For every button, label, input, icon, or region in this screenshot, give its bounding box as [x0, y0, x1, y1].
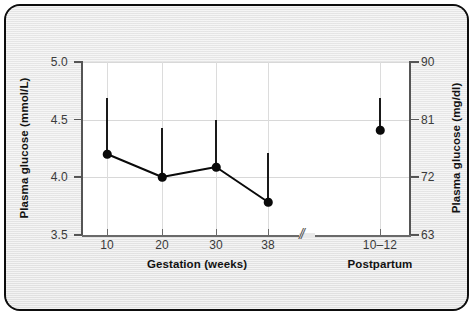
- data-point-30: [212, 163, 221, 172]
- x-axis-title-gestation: Gestation (weeks): [112, 258, 282, 270]
- figure-card: 5.0 4.5 4.0 3.5 90 81 72 63 10 20 30 38 …: [4, 4, 469, 311]
- chart-stage: 5.0 4.5 4.0 3.5 90 81 72 63 10 20 30 38 …: [4, 4, 469, 311]
- y-axis-left-title: Plasma glucose (mmol/L): [18, 58, 30, 238]
- data-point-10: [103, 150, 112, 159]
- data-point-20: [158, 173, 167, 182]
- data-point-postpartum: [376, 126, 385, 135]
- y-axis-right-title: Plasma glucose (mg/dl): [450, 58, 462, 238]
- data-point-38: [264, 198, 273, 207]
- x-axis-title-postpartum: Postpartum: [335, 258, 425, 270]
